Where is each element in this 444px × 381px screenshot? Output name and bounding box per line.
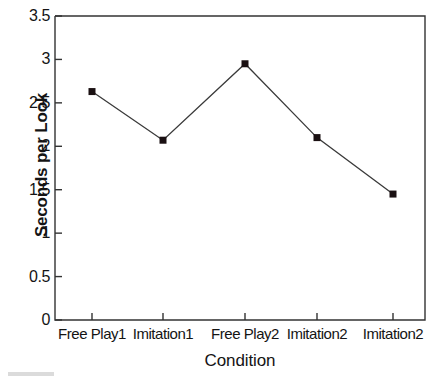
x-tick-label-imitation2-last: Imitation2	[363, 326, 424, 342]
y-axis-ticks	[55, 16, 62, 320]
x-tick-label-imitation2: Imitation2	[287, 326, 348, 342]
data-line	[92, 64, 393, 194]
plot-area	[0, 0, 444, 381]
scan-artifact	[8, 372, 54, 376]
data-markers	[89, 60, 397, 197]
x-tick-label-free-play2: Free Play2	[211, 326, 279, 342]
x-tick-label-imitation1: Imitation1	[133, 326, 194, 342]
axis-frame	[55, 16, 425, 320]
x-axis-ticks	[92, 313, 393, 320]
data-point-marker	[89, 88, 96, 95]
data-point-marker	[390, 191, 397, 198]
data-point-marker	[314, 134, 321, 141]
line-chart-figure: Seconds per Look 0 0.5 1 1.5 2 2.5 3 3.5…	[0, 0, 444, 381]
x-tick-label-free-play1: Free Play1	[58, 326, 126, 342]
data-point-marker	[242, 60, 249, 67]
data-point-marker	[160, 137, 167, 144]
x-axis-title: Condition	[55, 351, 425, 371]
